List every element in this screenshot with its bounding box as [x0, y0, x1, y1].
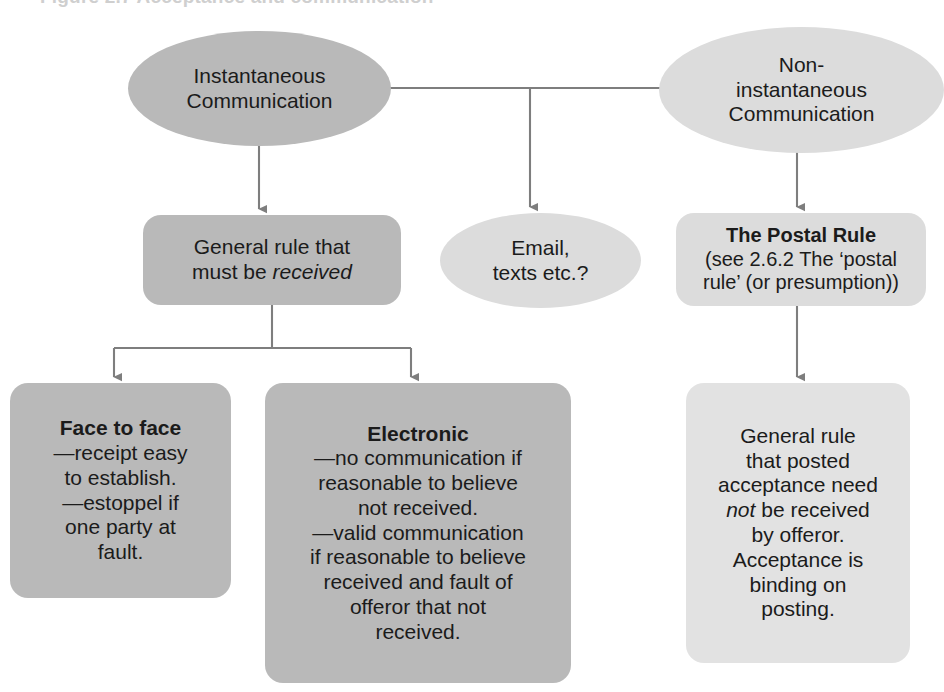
node-instantaneous-line2: Communication — [187, 89, 333, 112]
node-postal-rule-title: The Postal Rule — [684, 224, 918, 248]
node-posted-acceptance-line8: posting. — [761, 597, 835, 620]
node-face-to-face[interactable]: Face to face —receipt easy to establish.… — [10, 383, 231, 598]
node-non-instantaneous-communication[interactable]: Non- instantaneous Communication — [659, 27, 944, 153]
node-email-texts[interactable]: Email, texts etc.? — [440, 213, 641, 308]
node-non-instantaneous-line2: instantaneous — [736, 78, 867, 101]
node-non-instantaneous-line1: Non- — [779, 53, 825, 76]
node-postal-rule-sub-line1: (see 2.6.2 The ‘postal — [684, 248, 918, 272]
node-electronic-line2: reasonable to believe — [318, 471, 518, 494]
node-email-line2: texts etc.? — [493, 261, 589, 284]
node-face-to-face-line4: one party at — [65, 515, 176, 538]
node-posted-acceptance-line3: acceptance need — [718, 473, 878, 496]
node-general-rule-line2-italic: received — [273, 260, 352, 283]
node-posted-acceptance-line4-italic: not — [726, 498, 755, 521]
node-posted-acceptance-line1: General rule — [740, 424, 856, 447]
node-email-line1: Email, — [511, 236, 569, 259]
node-face-to-face-line2: to establish. — [64, 466, 176, 489]
node-electronic-line4: —valid communication — [312, 521, 523, 544]
node-face-to-face-line3: —estoppel if — [62, 491, 179, 514]
node-posted-acceptance-line7: binding on — [750, 573, 847, 596]
node-electronic-title: Electronic — [273, 422, 563, 447]
node-general-rule-line1: General rule that — [194, 235, 350, 258]
node-posted-acceptance-line6: Acceptance is — [733, 548, 864, 571]
node-general-rule-received[interactable]: General rule that must be received — [143, 215, 401, 305]
node-non-instantaneous-line3: Communication — [729, 102, 875, 125]
node-posted-acceptance[interactable]: General rule that posted acceptance need… — [686, 383, 910, 663]
node-posted-acceptance-line5: by offeror. — [751, 523, 844, 546]
node-face-to-face-line5: fault. — [98, 540, 144, 563]
node-electronic-line6: received and fault of — [323, 570, 512, 593]
node-posted-acceptance-line2: that posted — [746, 449, 850, 472]
node-instantaneous-communication[interactable]: Instantaneous Communication — [128, 31, 391, 146]
node-electronic-line3: not received. — [358, 496, 478, 519]
node-instantaneous-line1: Instantaneous — [194, 64, 326, 87]
node-face-to-face-title: Face to face — [18, 416, 223, 441]
node-electronic-line8: received. — [375, 620, 460, 643]
node-postal-rule[interactable]: The Postal Rule (see 2.6.2 The ‘postal r… — [676, 213, 926, 306]
node-electronic-line5: if reasonable to believe — [310, 545, 526, 568]
node-electronic[interactable]: Electronic —no communication if reasonab… — [265, 383, 571, 683]
node-face-to-face-line1: —receipt easy — [53, 441, 187, 464]
node-posted-acceptance-line4-rest: be received — [755, 498, 869, 521]
node-general-rule-line2-prefix: must be — [192, 260, 273, 283]
node-electronic-line7: offeror that not — [350, 595, 486, 618]
node-electronic-line1: —no communication if — [314, 446, 522, 469]
node-postal-rule-sub-line2: rule’ (or presumption)) — [684, 271, 918, 295]
